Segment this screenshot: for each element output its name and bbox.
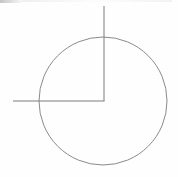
figure-canvas — [0, 0, 178, 177]
geometry-drawing — [0, 0, 178, 177]
